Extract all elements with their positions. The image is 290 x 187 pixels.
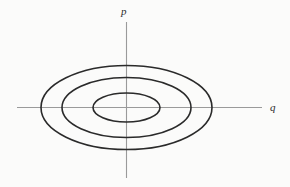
figure-background — [0, 0, 290, 187]
q-axis-label: q — [270, 102, 276, 113]
phase-space-diagram: p q — [0, 0, 290, 187]
phase-portrait-svg — [0, 0, 290, 187]
p-axis-label: p — [121, 6, 127, 17]
